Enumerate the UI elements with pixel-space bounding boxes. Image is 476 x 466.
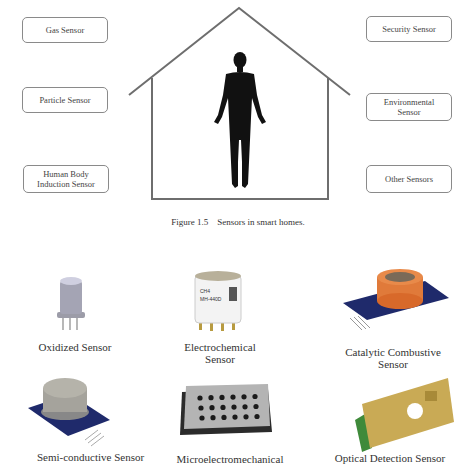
label-line: Electrochemical: [155, 341, 285, 353]
label-line: Optical Detection Sensor: [315, 452, 465, 464]
environmental-label-line1: Environmental: [384, 97, 435, 107]
mems-hole-dot: [242, 404, 247, 409]
mems-hole-dot: [254, 414, 259, 419]
human-body-label-line2: Induction Sensor: [37, 179, 95, 189]
label-line: Catalytic Combustive: [318, 346, 468, 358]
gas-sensor-label: Gas Sensor: [46, 25, 84, 35]
oxidized-sensor-label: Oxidized Sensor: [10, 341, 140, 353]
mems-hole-dot: [198, 405, 203, 410]
other-sensors-label: Other Sensors: [385, 174, 433, 184]
label-line: Sensor: [318, 358, 468, 370]
electrochemical-sensor-label: Electrochemical Sensor: [155, 341, 285, 365]
mems-hole-dot: [221, 415, 226, 420]
gas-sensor-box: Gas Sensor: [22, 17, 108, 43]
electrochemical-sensor-icon: CH4 MH-440D: [195, 271, 241, 331]
mems-hole-dot: [209, 405, 214, 410]
mems-hole-dot: [197, 395, 202, 400]
figure-caption: Figure 1.5 Sensors in smart homes.: [0, 217, 476, 227]
particle-sensor-box: Particle Sensor: [22, 87, 108, 113]
label-line: Oxidized Sensor: [10, 341, 140, 353]
mems-sensor-icon: [180, 384, 272, 435]
mems-hole-dot: [219, 395, 224, 400]
mems-hole-dot: [208, 395, 213, 400]
mems-hole-dot: [252, 394, 257, 399]
mems-hole-dot: [231, 405, 236, 410]
mems-hole-dot: [199, 415, 204, 420]
mems-hole-dot: [232, 415, 237, 420]
mems-hole-dot: [241, 394, 246, 399]
semiconductive-sensor-label: Semi-conductive Sensor: [18, 451, 163, 463]
mems-hole-dot: [243, 414, 248, 419]
mems-hole-dot: [210, 415, 215, 420]
label-line: Sensor: [155, 353, 285, 365]
mems-hole-dot: [230, 395, 235, 400]
human-body-induction-sensor-box: Human Body Induction Sensor: [23, 165, 109, 193]
label-line: Microelectromechanical: [165, 453, 295, 465]
catalytic-sensor-icon: [343, 269, 449, 330]
house-diagram: CH4 MH-440D: [0, 0, 476, 466]
human-silhouette-icon: [214, 52, 266, 188]
environmental-sensor-box: Environmental Sensor: [366, 93, 452, 121]
optical-sensor-icon: [355, 378, 454, 452]
particle-sensor-label: Particle Sensor: [39, 95, 90, 105]
semiconductive-sensor-icon: [28, 378, 110, 446]
other-sensors-box: Other Sensors: [366, 165, 452, 193]
label-line: Semi-conductive Sensor: [18, 451, 163, 463]
optical-sensor-label: Optical Detection Sensor: [315, 452, 465, 464]
mems-hole-dot: [253, 404, 258, 409]
security-sensor-label: Security Sensor: [382, 24, 436, 34]
security-sensor-box: Security Sensor: [366, 16, 452, 42]
environmental-label-line2: Sensor: [397, 107, 420, 117]
catalytic-sensor-label: Catalytic Combustive Sensor: [318, 346, 468, 370]
svg-text:CH4: CH4: [200, 288, 210, 294]
oxidized-sensor-icon: [57, 277, 85, 330]
mems-hole-dot: [220, 405, 225, 410]
svg-text:MH-440D: MH-440D: [200, 296, 222, 302]
mems-sensor-label: Microelectromechanical: [165, 453, 295, 465]
human-body-label-line1: Human Body: [43, 169, 89, 179]
